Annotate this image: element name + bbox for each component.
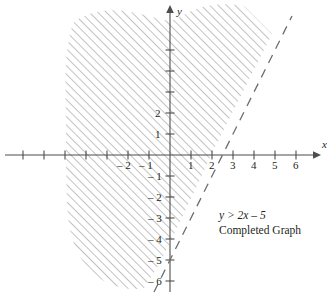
x-tick-label-6: 6 xyxy=(293,160,299,171)
x-tick-label-2: 2 xyxy=(209,160,215,171)
y-tick-label--1: – 1 xyxy=(148,171,162,182)
y-tick-label-1: 1 xyxy=(155,129,161,140)
figure-root: x y – 2 – 1 1 2 3 4 5 6 2 1 – 1 – 2 – 3 … xyxy=(0,0,336,302)
x-tick-label-3: 3 xyxy=(230,160,236,171)
coordinate-plane-svg xyxy=(0,0,336,302)
y-tick-label-2: 2 xyxy=(155,108,161,119)
x-tick-label-1: 1 xyxy=(188,160,194,171)
caption-completed-graph: Completed Graph xyxy=(219,223,301,239)
y-tick-label--6: – 6 xyxy=(148,276,162,287)
shaded-region xyxy=(0,0,336,302)
y-axis-arrow xyxy=(166,5,174,13)
y-tick-label--4: – 4 xyxy=(148,234,162,245)
y-axis-label: y xyxy=(177,6,182,17)
y-tick-label--5: – 5 xyxy=(148,255,162,266)
y-tick-label--3: – 3 xyxy=(148,213,162,224)
inequality-annotation: y > 2x – 5 xyxy=(219,208,266,224)
y-tick-label--2: – 2 xyxy=(148,192,162,203)
x-axis-arrow xyxy=(313,151,321,159)
x-tick-label-4: 4 xyxy=(251,160,257,171)
x-axis-label: x xyxy=(322,139,327,150)
x-tick-label-5: 5 xyxy=(272,160,278,171)
x-tick-label--2: – 2 xyxy=(117,160,131,171)
